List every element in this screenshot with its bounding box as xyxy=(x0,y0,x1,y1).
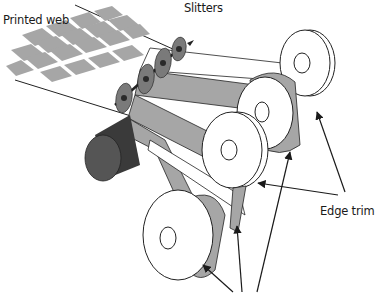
rewind-roll-lower xyxy=(143,190,225,280)
label-edge-trim: Edge trim xyxy=(320,204,374,218)
label-printed-web: Printed web xyxy=(3,13,69,27)
slitting-diagram xyxy=(0,0,379,303)
label-slitters: Slitters xyxy=(184,1,223,15)
idler-roller xyxy=(85,115,140,181)
rewind-roll-front-upper xyxy=(202,112,268,188)
